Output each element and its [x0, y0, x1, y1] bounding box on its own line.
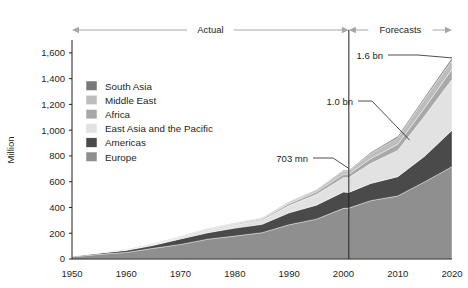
annotation-label: 1.6 bn — [357, 50, 383, 61]
x-tick-label: 1980 — [224, 268, 245, 279]
y-tick-label: 1,200 — [41, 99, 65, 110]
period-span-markers: ActualForecasts — [72, 24, 452, 35]
stacked-area-chart: ActualForecasts 02004006008001,0001,2001… — [0, 0, 468, 288]
legend-item: Americas — [86, 137, 146, 148]
period-span-label: Forecasts — [380, 24, 422, 35]
annotation-label: 703 mn — [276, 153, 308, 164]
y-tick-label: 1,400 — [41, 73, 65, 84]
legend-item-label: Europe — [105, 152, 137, 163]
x-tick-label: 1950 — [61, 268, 82, 279]
span-arrow-head-left — [72, 27, 79, 33]
period-span-label: Actual — [197, 24, 223, 35]
y-tick-label: 200 — [49, 228, 65, 239]
y-tick-label: 800 — [49, 150, 65, 161]
annotation-total-2001: 703 mn — [276, 153, 349, 168]
span-arrow-head-left — [349, 27, 356, 33]
legend: South AsiaMiddle EastAfricaEast Asia and… — [86, 81, 213, 163]
x-tick-label: 2020 — [441, 268, 462, 279]
x-tick-label: 1970 — [170, 268, 191, 279]
legend-swatch — [86, 152, 97, 162]
annotation-label: 1.0 bn — [327, 96, 353, 107]
legend-item-label: Americas — [105, 137, 146, 148]
legend-item: Africa — [86, 109, 131, 120]
legend-item: Middle East — [86, 95, 156, 106]
y-tick-label: 1,000 — [41, 125, 65, 136]
legend-item: Europe — [86, 152, 137, 163]
legend-item-label: Middle East — [105, 95, 156, 106]
span-arrow-head-right — [342, 27, 349, 33]
annotation-total-2020: 1.6 bn — [357, 50, 452, 61]
legend-swatch — [86, 109, 97, 119]
y-axis-title: Million — [5, 137, 16, 164]
period-span-actual: Actual — [72, 24, 349, 35]
x-tick-label: 1960 — [116, 268, 137, 279]
legend-swatch — [86, 124, 97, 134]
legend-swatch — [86, 138, 97, 148]
chart-canvas: ActualForecasts 02004006008001,0001,2001… — [0, 0, 468, 288]
legend-item-label: Africa — [105, 109, 131, 120]
period-span-forecasts: Forecasts — [349, 24, 452, 35]
legend-item: South Asia — [86, 81, 152, 92]
x-tick-label: 1990 — [279, 268, 300, 279]
annotation-total-2010: 1.0 bn — [327, 96, 410, 140]
legend-swatch — [86, 81, 97, 91]
x-tick-label: 2000 — [333, 268, 354, 279]
annotation-leader-line — [313, 158, 349, 168]
span-arrow-head-right — [445, 27, 452, 33]
y-tick-label: 600 — [49, 176, 65, 187]
annotation-leader-line — [388, 55, 452, 58]
y-axis-ticks-group: 02004006008001,0001,2001,4001,600 — [41, 47, 72, 264]
legend-swatch — [86, 95, 97, 105]
x-tick-label: 2010 — [387, 268, 408, 279]
x-axis-ticks-group: 19501960197019801990200020102020 — [61, 268, 462, 279]
legend-item: East Asia and the Pacific — [86, 123, 213, 134]
legend-item-label: East Asia and the Pacific — [105, 123, 213, 134]
y-tick-label: 0 — [60, 253, 65, 264]
y-tick-label: 1,600 — [41, 47, 65, 58]
legend-item-label: South Asia — [105, 81, 152, 92]
y-tick-label: 400 — [49, 202, 65, 213]
